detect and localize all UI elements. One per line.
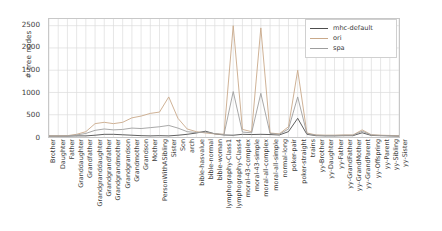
x-axis-tick-label: lymphography-Class1 xyxy=(226,139,232,208)
y-axis-tick-label: 0 xyxy=(6,134,40,141)
x-axis-tick-label: Grandgrandmother xyxy=(115,139,121,201)
x-axis-tick-label: Grandgrandfather xyxy=(106,139,112,197)
x-axis-tick-label: PersonWithASibling xyxy=(162,139,168,201)
legend-label: ori xyxy=(333,35,342,42)
x-axis-tick-label: Daughter xyxy=(60,139,66,169)
x-axis-tick-label: yy-GrandParent xyxy=(365,139,371,189)
x-axis-tick-label: Grandfather xyxy=(87,139,93,178)
x-axis-tick-label: bible-normal xyxy=(208,139,214,179)
x-axis-tick-label: yy-Parent xyxy=(384,139,390,169)
y-axis-tick-labels: 05001000150020002500 xyxy=(6,0,40,231)
legend-label: mhc-default xyxy=(333,25,373,32)
x-axis-tick-label: moral-43-simple xyxy=(254,139,260,191)
x-axis-tick-label: yy-GrandMother xyxy=(356,139,362,191)
x-axis-tick-label: poker-pair xyxy=(291,139,297,171)
x-axis-tick-label: yy-GrandFather xyxy=(347,139,353,189)
x-axis-tick-label: moral-all-complex xyxy=(263,139,269,197)
x-axis-tick-label: Mother xyxy=(152,139,158,162)
x-axis-tick-label: poker-straight xyxy=(301,139,307,184)
legend-color-swatch-spa xyxy=(310,48,328,49)
chart-figure: # tree nodes 05001000150020002500 Brothe… xyxy=(0,0,442,231)
x-axis-tick-label: yy-Sister xyxy=(402,139,408,167)
x-axis-tick-label: moral-all-simple xyxy=(273,139,279,191)
x-axis-tick-label: Sister xyxy=(171,139,177,157)
x-axis-tick-label: Grandgranddaughter xyxy=(97,139,103,207)
x-axis-tick-label: yy-Offspring xyxy=(375,139,381,178)
y-axis-tick-label: 500 xyxy=(6,112,40,119)
legend-item[interactable]: ori xyxy=(310,34,392,43)
x-axis-tick-label: Son xyxy=(180,139,186,151)
legend-item[interactable]: mhc-default xyxy=(310,24,392,33)
x-axis-tick-label: Grandmother xyxy=(134,139,140,182)
y-axis-tick-label: 2500 xyxy=(6,21,40,28)
legend-item[interactable]: spa xyxy=(310,44,392,53)
x-axis-tick-label: yy-Daughter xyxy=(328,139,334,179)
x-axis-tick-label: Father xyxy=(69,139,75,159)
legend-color-swatch-mhc-default xyxy=(310,28,328,29)
y-axis-tick-label: 2000 xyxy=(6,44,40,51)
legend-label: spa xyxy=(333,45,345,52)
legend-color-swatch-ori xyxy=(310,38,328,39)
x-axis-tick-label: Grandson xyxy=(143,139,149,170)
x-axis-tick-label: lymphography-Class4 xyxy=(236,139,242,208)
y-axis-tick-label: 1000 xyxy=(6,89,40,96)
x-axis-tick-label: arch xyxy=(189,139,195,153)
chart-legend: mhc-default ori spa xyxy=(305,19,397,58)
x-axis-tick-label: bible-woman xyxy=(217,139,223,180)
x-axis-tick-label: Grandgrandson xyxy=(125,139,131,189)
x-axis-tick-label: moral-43-complex xyxy=(245,139,251,197)
x-axis-tick-label: Brother xyxy=(50,139,56,163)
x-axis-tick-label: yy-Father xyxy=(338,139,344,169)
x-axis-tick-label: yy-Sibling xyxy=(393,139,399,170)
x-axis-tick-label: normal-long xyxy=(282,139,288,178)
x-axis-tick-label: trains xyxy=(310,139,316,157)
x-axis-tick-label: bible-hasvalue xyxy=(199,139,205,186)
x-axis-tick-label: yy-Brother xyxy=(319,139,325,172)
x-axis-tick-label: Granddaughter xyxy=(78,139,84,188)
x-axis-tick-labels: BrotherDaughterFatherGranddaughterGrandf… xyxy=(48,139,400,231)
y-axis-tick-label: 1500 xyxy=(6,66,40,73)
